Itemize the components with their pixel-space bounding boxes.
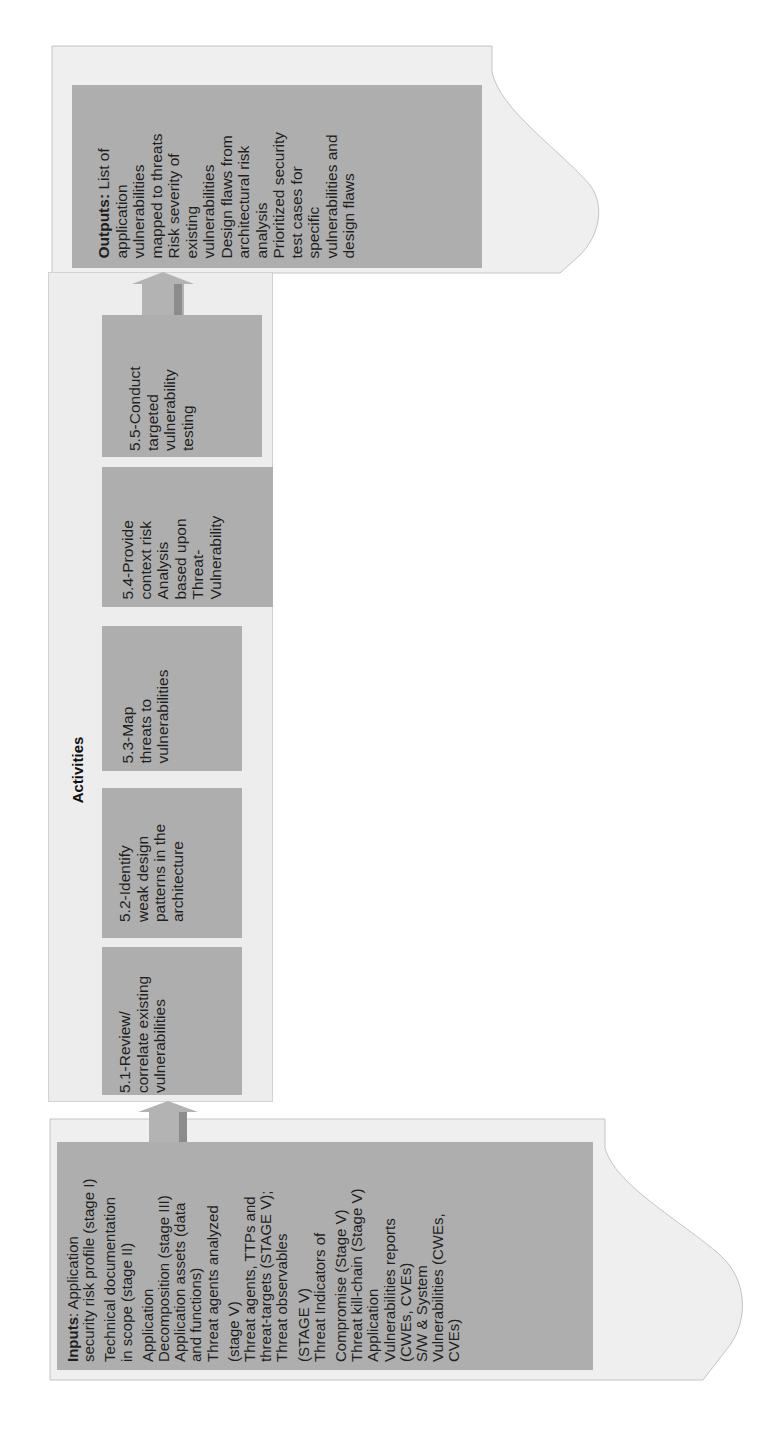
inputs-box: Inputs: Application security risk profil…: [57, 1142, 593, 1370]
activity-5-3-box: 5.3-Map threats to vulnerabilities: [102, 626, 242, 771]
activity-5-2-text: 5.2-Identify weak design patterns in the…: [102, 788, 242, 938]
outputs-text: Outputs: List of application vulnerabili…: [72, 85, 482, 268]
arrow-up-to-activities-icon: [136, 1099, 200, 1145]
inputs-label: Inputs: [64, 1317, 81, 1362]
activities-title: Activities: [69, 730, 87, 810]
activity-5-5-box: 5.5-Conduct targeted vulnerability testi…: [102, 315, 262, 457]
inputs-text: Inputs: Application security risk profil…: [57, 1142, 593, 1370]
activity-5-1-box: 5.1-Review/ correlate existing vulnerabi…: [102, 947, 242, 1095]
outputs-box: Outputs: List of application vulnerabili…: [72, 85, 482, 268]
activity-5-4-box: 5.4-Provide context risk Analysis based …: [102, 467, 273, 607]
activity-5-2-box: 5.2-Identify weak design patterns in the…: [102, 788, 242, 938]
activity-5-4-text: 5.4-Provide context risk Analysis based …: [102, 467, 273, 607]
outputs-label: Outputs:: [94, 193, 111, 258]
arrow-up-to-outputs-icon: [130, 270, 196, 318]
activity-5-5-text: 5.5-Conduct targeted vulnerability testi…: [102, 315, 262, 457]
activity-5-1-text: 5.1-Review/ correlate existing vulnerabi…: [102, 947, 242, 1095]
activity-5-3-text: 5.3-Map threats to vulnerabilities: [102, 626, 242, 771]
